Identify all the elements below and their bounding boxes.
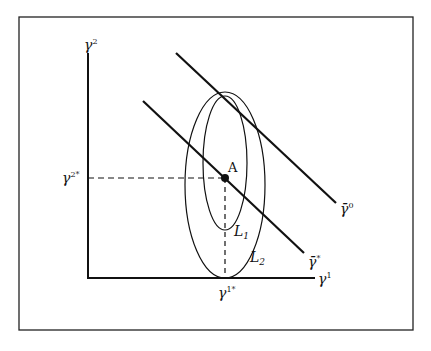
x-axis-label: γ1 — [318, 271, 331, 287]
gamma-bar-star-label: γ̄* — [308, 254, 320, 270]
y-axis-label: γ2 — [84, 37, 97, 53]
constraint-diagram: A γ2 γ1 γ2* γ1* L1 L2 γ̄* γ̄0 — [0, 0, 431, 351]
x-star-label: γ1* — [218, 285, 235, 301]
optimum-point-a — [221, 174, 229, 182]
y-star-label: γ2* — [62, 170, 79, 186]
point-a-label: A — [227, 160, 238, 175]
l2-label: L2 — [249, 249, 265, 267]
gamma-bar-zero-label: γ̄0 — [340, 201, 353, 217]
constraint-line-gamma-bar-zero — [176, 53, 336, 203]
l1-label: L1 — [233, 223, 249, 241]
